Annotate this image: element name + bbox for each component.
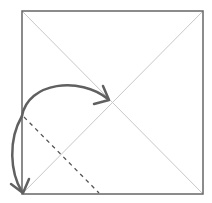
origami-diagram xyxy=(0,0,212,203)
